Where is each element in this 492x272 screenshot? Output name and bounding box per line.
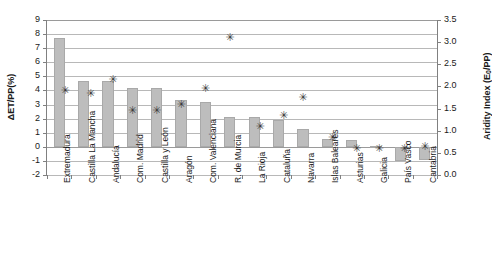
marker-4: ✳ bbox=[151, 105, 163, 116]
category-label-15: Cantabria bbox=[429, 146, 438, 183]
marker-8: ✳ bbox=[254, 121, 266, 132]
marker-7: ✳ bbox=[224, 32, 236, 43]
marker-5: ✳ bbox=[175, 99, 187, 110]
category-label-14: País Vasco bbox=[404, 141, 413, 183]
y-tick-left-3: 3 bbox=[0, 100, 40, 109]
gridline-8 bbox=[47, 34, 437, 35]
y-tickmark-right-2.5 bbox=[438, 64, 441, 65]
bar-10 bbox=[297, 129, 308, 147]
y-tickmark-left-6 bbox=[43, 62, 46, 63]
marker-9: ✳ bbox=[278, 110, 290, 121]
y-tickmark-left-5 bbox=[43, 76, 46, 77]
y-tick-left-7: 7 bbox=[0, 43, 40, 52]
y-tick-right-1.0: 1.0 bbox=[444, 126, 488, 135]
y-tick-left-1: 1 bbox=[0, 128, 40, 137]
category-label-3: Com. Madrid bbox=[136, 134, 145, 183]
y-tickmark-right-3.5 bbox=[438, 20, 441, 21]
y-tick-left--1: -1 bbox=[0, 156, 40, 165]
gridline-5 bbox=[47, 76, 437, 77]
y-tickmark-right-2.0 bbox=[438, 86, 441, 87]
y-tick-right-2.0: 2.0 bbox=[444, 81, 488, 90]
y-tickmark-left-0 bbox=[43, 147, 46, 148]
y-tickmark-left-4 bbox=[43, 90, 46, 91]
y-tickmark-left--2 bbox=[43, 175, 46, 176]
y-tickmark-right-1.0 bbox=[438, 131, 441, 132]
marker-10: ✳ bbox=[297, 92, 309, 103]
y-tick-left-8: 8 bbox=[0, 29, 40, 38]
category-label-13: Galicia bbox=[380, 157, 389, 183]
y-tickmark-left-3 bbox=[43, 105, 46, 106]
y-tickmark-right-1.5 bbox=[438, 109, 441, 110]
y-tickmark-left-9 bbox=[43, 20, 46, 21]
y-tickmark-right-0.5 bbox=[438, 153, 441, 154]
x-tickmark-0 bbox=[47, 175, 48, 179]
y-tickmark-right-0.0 bbox=[438, 175, 441, 176]
marker-1: ✳ bbox=[85, 88, 97, 99]
y-tickmark-left-1 bbox=[43, 133, 46, 134]
y-tick-right-0.5: 0.5 bbox=[444, 148, 488, 157]
y-tick-left-4: 4 bbox=[0, 85, 40, 94]
category-label-12: Asturias bbox=[356, 152, 365, 183]
marker-3: ✳ bbox=[126, 105, 138, 116]
category-label-11: Islas Baleares bbox=[331, 130, 340, 183]
y-tickmark-right-3.0 bbox=[438, 42, 441, 43]
gridline-6 bbox=[47, 62, 437, 63]
bar-2 bbox=[102, 81, 113, 147]
y-tick-left-5: 5 bbox=[0, 71, 40, 80]
category-label-10: Navarra bbox=[307, 153, 316, 183]
y-tickmark-left--1 bbox=[43, 161, 46, 162]
category-label-0: Extremadura bbox=[63, 134, 72, 183]
category-label-6: Com. Valenciana bbox=[209, 119, 218, 183]
y-tick-left--2: -2 bbox=[0, 170, 40, 179]
y-tick-left-2: 2 bbox=[0, 114, 40, 123]
y-tickmark-left-8 bbox=[43, 34, 46, 35]
y-axis-right-title-subscript: 0 bbox=[485, 70, 492, 74]
category-label-4: Castilla y León bbox=[161, 127, 170, 183]
marker-0: ✳ bbox=[59, 85, 71, 96]
category-label-9: Cataluña bbox=[283, 149, 292, 183]
category-label-7: R. de Murcia bbox=[234, 135, 243, 183]
marker-2: ✳ bbox=[107, 74, 119, 85]
chart-container: ΔET/PP(%) Aridity Index (E0/PP) ✳✳✳✳✳✳✳✳… bbox=[0, 0, 492, 272]
y-tick-right-0.0: 0.0 bbox=[444, 170, 488, 179]
y-tick-right-3.0: 3.0 bbox=[444, 37, 488, 46]
gridline-9 bbox=[47, 20, 437, 21]
y-tick-right-2.5: 2.5 bbox=[444, 59, 488, 68]
category-label-2: Andalucía bbox=[112, 145, 121, 183]
y-tick-left-9: 9 bbox=[0, 15, 40, 24]
y-tickmark-left-2 bbox=[43, 119, 46, 120]
y-tick-right-1.5: 1.5 bbox=[444, 104, 488, 113]
category-label-1: Castilla La Mancha bbox=[88, 111, 97, 183]
bar-9 bbox=[273, 120, 284, 147]
gridline-7 bbox=[47, 48, 437, 49]
marker-6: ✳ bbox=[199, 83, 211, 94]
y-tick-right-3.5: 3.5 bbox=[444, 15, 488, 24]
y-tick-left-0: 0 bbox=[0, 142, 40, 151]
category-label-8: La Rioja bbox=[258, 152, 267, 183]
y-tick-left-6: 6 bbox=[0, 57, 40, 66]
marker-13: ✳ bbox=[373, 143, 385, 154]
category-label-5: Aragón bbox=[185, 156, 194, 183]
y-tickmark-left-7 bbox=[43, 48, 46, 49]
